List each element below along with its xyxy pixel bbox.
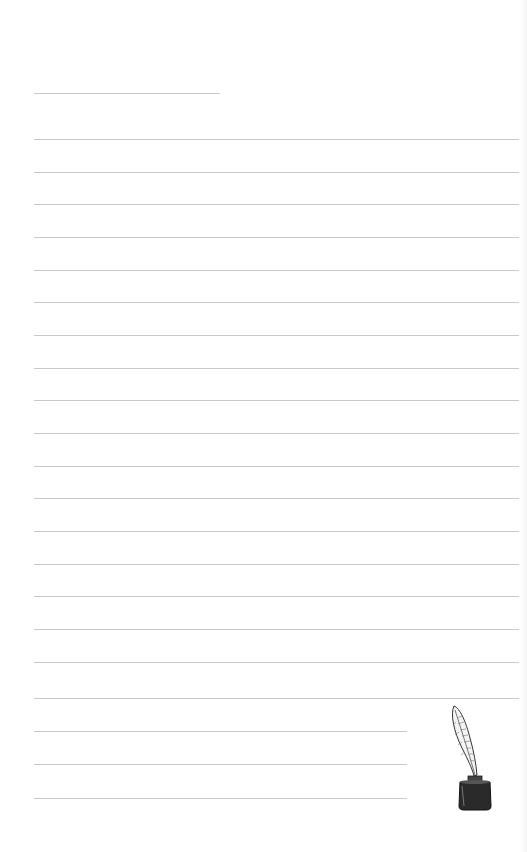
ruled-line — [34, 237, 519, 238]
quill-inkwell-icon — [448, 702, 492, 812]
ruled-line — [34, 731, 407, 732]
ruled-line — [34, 172, 519, 173]
ruled-line — [34, 531, 519, 532]
ruled-line — [34, 798, 407, 799]
ruled-line — [34, 662, 519, 663]
page-edge-shadow — [521, 0, 527, 852]
ruled-line — [34, 596, 519, 597]
ruled-line — [34, 204, 519, 205]
ruled-line — [34, 335, 519, 336]
ruled-line — [34, 400, 519, 401]
ruled-line — [34, 139, 519, 140]
ruled-line — [34, 368, 519, 369]
ruled-line — [34, 629, 519, 630]
title-line — [34, 93, 220, 94]
ruled-line — [34, 302, 519, 303]
ruled-line — [34, 498, 519, 499]
ruled-line — [34, 564, 519, 565]
ruled-line — [34, 764, 407, 765]
ruled-line — [34, 466, 519, 467]
ruled-line — [34, 698, 519, 699]
ruled-line — [34, 433, 519, 434]
ruled-line — [34, 270, 519, 271]
